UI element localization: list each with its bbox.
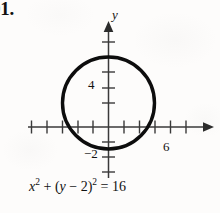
y-axis-arrowhead (104, 21, 114, 32)
equation-equals: = (101, 179, 109, 194)
y-axis-label: y (112, 8, 118, 21)
figure-page: 01. (0, 0, 220, 213)
equation-plus: + (43, 179, 51, 194)
equation-caption: x2 + (y − 2)2 = 16 (29, 180, 126, 194)
x-tick-label-6: 6 (163, 140, 170, 153)
equation-exponent-2: 2 (92, 177, 97, 187)
y-tick-label-4: 4 (88, 78, 95, 91)
equation-term-y: y (60, 179, 66, 194)
x-axis-arrowhead (203, 122, 214, 132)
equation-minus: − (69, 179, 77, 194)
y-tick-label-negative-2: −2 (84, 147, 98, 160)
equation-right-hand-side: 16 (112, 179, 126, 194)
equation-exponent-1: 2 (35, 177, 40, 187)
equation-inner-constant: 2 (81, 179, 88, 194)
